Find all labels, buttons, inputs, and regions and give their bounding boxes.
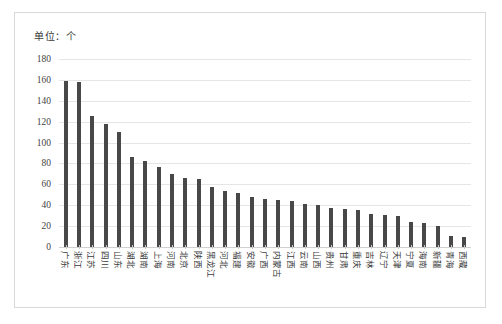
x-axis-tick: 湖南	[139, 249, 152, 319]
x-axis-tick: 云南	[298, 249, 311, 319]
bar[interactable]	[329, 208, 333, 247]
x-axis-tick: 河南	[165, 249, 178, 319]
x-tick-mark	[385, 245, 386, 249]
x-axis-tick: 重庆	[351, 249, 364, 319]
x-axis-tick-label: 西藏	[458, 251, 470, 269]
bar[interactable]	[130, 157, 134, 247]
x-tick-mark	[305, 245, 306, 249]
bar-slot	[99, 59, 112, 247]
bar[interactable]	[263, 199, 267, 247]
bar[interactable]	[143, 161, 147, 247]
bar-slot	[298, 59, 311, 247]
y-axis-tick-label: 180	[15, 54, 55, 64]
y-axis: 020406080100120140160180	[15, 59, 55, 247]
bar[interactable]	[250, 197, 254, 247]
x-axis-tick: 江苏	[86, 249, 99, 319]
x-axis-tick-label: 贵州	[325, 251, 337, 269]
chart-frame: 单位：个 020406080100120140160180 广东浙江江苏四川山东…	[14, 12, 486, 308]
x-tick-mark	[371, 245, 372, 249]
bar-slot	[258, 59, 271, 247]
bar[interactable]	[369, 214, 373, 247]
x-axis-tick: 宁夏	[405, 249, 418, 319]
bar[interactable]	[396, 216, 400, 247]
bar[interactable]	[409, 222, 413, 247]
x-tick-mark	[278, 245, 279, 249]
bar-slot	[458, 59, 471, 247]
bar-slot	[125, 59, 138, 247]
bar[interactable]	[117, 132, 121, 247]
bar[interactable]	[104, 124, 108, 247]
bar[interactable]	[316, 205, 320, 247]
x-tick-mark	[199, 245, 200, 249]
bar-slot	[112, 59, 125, 247]
x-tick-mark	[185, 245, 186, 249]
x-tick-mark	[145, 245, 146, 249]
x-axis-tick: 湖北	[125, 249, 138, 319]
bar[interactable]	[77, 82, 81, 247]
x-axis-tick: 山西	[312, 249, 325, 319]
bar[interactable]	[157, 167, 161, 247]
bar-slot	[431, 59, 444, 247]
bar-slot	[338, 59, 351, 247]
x-axis-tick-label: 天津	[392, 251, 404, 269]
bar-slot	[405, 59, 418, 247]
x-axis-tick: 上海	[152, 249, 165, 319]
x-axis-tick-label: 福建	[232, 251, 244, 269]
bar[interactable]	[90, 116, 94, 247]
x-axis-tick: 天津	[391, 249, 404, 319]
bar[interactable]	[422, 223, 426, 247]
bar[interactable]	[210, 187, 214, 247]
bar[interactable]	[236, 193, 240, 247]
bar-slot	[232, 59, 245, 247]
bar-slot	[444, 59, 457, 247]
bar-slot	[152, 59, 165, 247]
bar[interactable]	[290, 201, 294, 247]
x-axis-tick: 北京	[179, 249, 192, 319]
x-axis-tick-label: 浙江	[73, 251, 85, 269]
x-axis-tick-label: 青海	[445, 251, 457, 269]
bar-slot	[179, 59, 192, 247]
y-axis-tick-label: 120	[15, 117, 55, 127]
x-axis-tick-label: 吉林	[365, 251, 377, 269]
bar[interactable]	[170, 174, 174, 247]
x-axis-tick: 海南	[418, 249, 431, 319]
x-axis-tick: 广东	[59, 249, 72, 319]
x-axis-tick-label: 湖南	[139, 251, 151, 269]
bar[interactable]	[223, 191, 227, 247]
bar[interactable]	[276, 200, 280, 247]
x-tick-mark	[66, 245, 67, 249]
x-axis-tick-label: 北京	[179, 251, 191, 269]
x-axis-tick-label: 海南	[418, 251, 430, 269]
x-tick-mark	[345, 245, 346, 249]
y-axis-tick-label: 60	[15, 179, 55, 189]
x-axis-tick-label: 甘肃	[339, 251, 351, 269]
x-axis-tick-label: 河北	[219, 251, 231, 269]
x-axis-tick-label: 山东	[113, 251, 125, 269]
y-axis-tick-label: 40	[15, 200, 55, 210]
x-axis-tick-label: 安徽	[246, 251, 258, 269]
x-axis-tick: 浙江	[72, 249, 85, 319]
x-tick-mark	[398, 245, 399, 249]
x-tick-mark	[238, 245, 239, 249]
bar[interactable]	[383, 215, 387, 247]
bar-slot	[391, 59, 404, 247]
bar[interactable]	[64, 81, 68, 247]
bar[interactable]	[303, 204, 307, 247]
x-tick-mark	[464, 245, 465, 249]
x-axis-tick-label: 广东	[60, 251, 72, 269]
x-axis-tick-label: 江西	[286, 251, 298, 269]
bar[interactable]	[197, 179, 201, 247]
x-tick-mark	[424, 245, 425, 249]
bar[interactable]	[183, 178, 187, 247]
x-axis-tick: 贵州	[325, 249, 338, 319]
x-axis-tick-label: 湖北	[126, 251, 138, 269]
bar-slot	[218, 59, 231, 247]
bar[interactable]	[356, 210, 360, 247]
x-axis-tick-label: 陕西	[193, 251, 205, 269]
bar-slot	[312, 59, 325, 247]
y-axis-tick-label: 20	[15, 221, 55, 231]
bar[interactable]	[343, 209, 347, 247]
x-tick-mark	[292, 245, 293, 249]
x-axis-tick: 黑龙江	[205, 249, 218, 319]
bar[interactable]	[436, 226, 440, 247]
